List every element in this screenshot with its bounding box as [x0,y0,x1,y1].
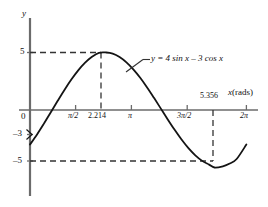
x-tick-label-5-356: 5.356 [200,92,218,100]
x-axis-label: x(rads) [228,88,253,97]
x-tick-label-2pi: 2π [240,112,248,120]
x-tick-label-3pi-over-2: 3π/2 [177,112,191,120]
y-axis-label: y [22,9,26,18]
x-tick-label-2-214: 2.214 [88,112,106,120]
y-tick-label-5: 5 [20,47,25,56]
equation-label: y = 4 sin x – 3 cos x [151,54,223,63]
plot-canvas [0,0,268,207]
y-tick-label-minus-3: –3 [13,129,22,138]
x-tick-label-pi-over-2: π/2 [68,112,78,120]
x-tick-label-pi: π [128,112,132,120]
x-axis-units: (rads) [232,87,253,97]
y-tick-label-0: 0 [21,112,26,121]
y-tick-label-minus-5: –5 [13,156,22,165]
graph-figure: y x(rads) 5 0 –3 –5 π/2 2.214 π 3π/2 5.3… [0,0,268,207]
